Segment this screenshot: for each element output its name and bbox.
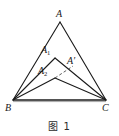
vertex-label-A1: A1 xyxy=(41,45,50,55)
vertex-label-A1-subscript: 1 xyxy=(47,49,50,56)
vertex-label-A2-subscript: 2 xyxy=(44,70,47,77)
side-A1C xyxy=(55,58,106,100)
vertex-label-A: A xyxy=(56,9,62,19)
geometry-diagram xyxy=(0,0,119,136)
segment-A2-Aprime xyxy=(55,66,73,78)
vertex-label-B: B xyxy=(5,103,11,113)
vertex-label-C: C xyxy=(102,103,109,113)
figure-container: A A1 A2 A′ B C 图 1 xyxy=(0,0,119,136)
vertex-label-A2: A2 xyxy=(38,66,47,76)
side-A2C xyxy=(55,78,106,100)
point-label-a-prime: A′ xyxy=(67,56,75,66)
figure-caption: 图 1 xyxy=(0,118,119,133)
